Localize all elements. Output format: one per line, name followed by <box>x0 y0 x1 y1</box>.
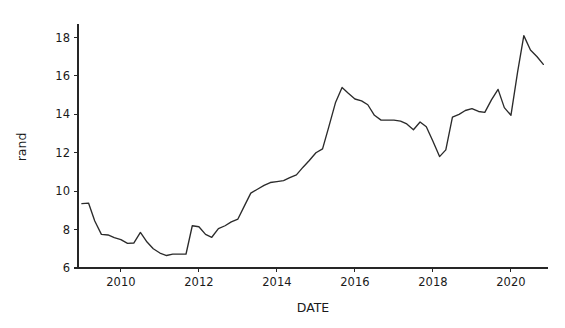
y-tick-label: 16 <box>55 69 70 83</box>
x-tick-label: 2012 <box>184 275 213 289</box>
y-tick-label: 18 <box>55 31 70 45</box>
y-tick-label: 10 <box>55 184 70 198</box>
y-tick-label: 12 <box>55 146 70 160</box>
x-tick-label: 2010 <box>106 275 135 289</box>
line-chart: 681012141618 201020122014201620182020 ra… <box>0 0 565 328</box>
y-axis-title: rand <box>14 133 29 162</box>
x-tick-label: 2016 <box>340 275 369 289</box>
x-axis-title: DATE <box>297 300 330 315</box>
x-tick-label: 2014 <box>262 275 291 289</box>
x-tick-label: 2020 <box>496 275 525 289</box>
y-tick-label: 8 <box>63 223 70 237</box>
y-tick-label: 14 <box>55 107 70 121</box>
chart-figure: 681012141618 201020122014201620182020 ra… <box>0 0 565 328</box>
y-tick-label: 6 <box>63 261 70 275</box>
x-tick-label: 2018 <box>418 275 447 289</box>
